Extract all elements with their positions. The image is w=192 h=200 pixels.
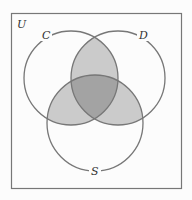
venn-diagram: U C D S <box>0 0 192 200</box>
set-c-label: C <box>42 29 51 42</box>
set-d-label: D <box>138 29 148 42</box>
set-s-label: S <box>91 165 99 178</box>
universe-label: U <box>17 18 27 31</box>
